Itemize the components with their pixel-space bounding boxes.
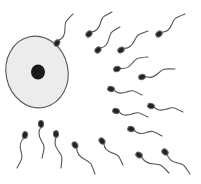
sperm-head xyxy=(117,46,126,54)
sperm-cell xyxy=(85,12,112,38)
sperm-tail xyxy=(58,14,73,40)
sperm-head xyxy=(94,46,102,55)
sperm-head xyxy=(155,30,164,38)
sperm-head xyxy=(71,141,79,150)
sperm-head xyxy=(53,130,59,137)
sperm-tail xyxy=(161,14,185,32)
sperm-tail xyxy=(119,112,148,117)
sperm-head xyxy=(112,108,120,114)
sperm-head xyxy=(98,137,106,146)
sperm-cell xyxy=(138,69,175,80)
sperm-cell xyxy=(71,141,95,174)
sperm-cell xyxy=(161,148,190,174)
sperm-tail xyxy=(55,137,62,168)
sperm-tail xyxy=(134,130,162,136)
sperm-head xyxy=(127,126,135,133)
sperm-tail xyxy=(123,31,148,48)
sperm-tail xyxy=(17,138,24,168)
sperm-tail xyxy=(77,147,95,174)
egg-nucleus xyxy=(31,65,45,80)
illustration-canvas xyxy=(0,0,201,184)
sperm-head xyxy=(138,74,146,81)
sperm-tail xyxy=(167,154,190,174)
sperm-tail xyxy=(91,12,112,32)
sperm-cell xyxy=(107,86,142,95)
sperm-head xyxy=(85,30,94,38)
egg-cell xyxy=(0,30,75,113)
sperm-tail xyxy=(142,157,169,173)
sperm-cell xyxy=(112,108,148,117)
sperm-cell xyxy=(53,130,62,168)
sperm-tail xyxy=(114,90,142,95)
sperm-cell xyxy=(38,121,44,158)
sperm-head xyxy=(38,121,43,128)
sperm-cell xyxy=(17,131,28,168)
sperm-tail xyxy=(39,127,44,158)
sperm-tail xyxy=(104,143,123,165)
sperm-cell xyxy=(147,103,183,112)
sperm-cell xyxy=(117,31,148,54)
sperm-cell xyxy=(94,27,120,54)
sperm-head xyxy=(113,65,121,72)
sperm-cell xyxy=(113,57,148,73)
sperm-tail xyxy=(100,27,120,48)
sperm-head xyxy=(107,86,115,92)
sperm-head xyxy=(22,131,29,139)
sperm-tail xyxy=(154,107,183,112)
sperm-tail xyxy=(145,69,175,78)
sperm-cell xyxy=(98,137,123,165)
sperm-head xyxy=(147,103,155,109)
sperm-cell xyxy=(53,14,73,47)
sperm-cell xyxy=(127,126,162,136)
sperm-cell xyxy=(155,14,185,38)
sperm-tail xyxy=(120,57,148,69)
sperm-head xyxy=(161,148,170,156)
